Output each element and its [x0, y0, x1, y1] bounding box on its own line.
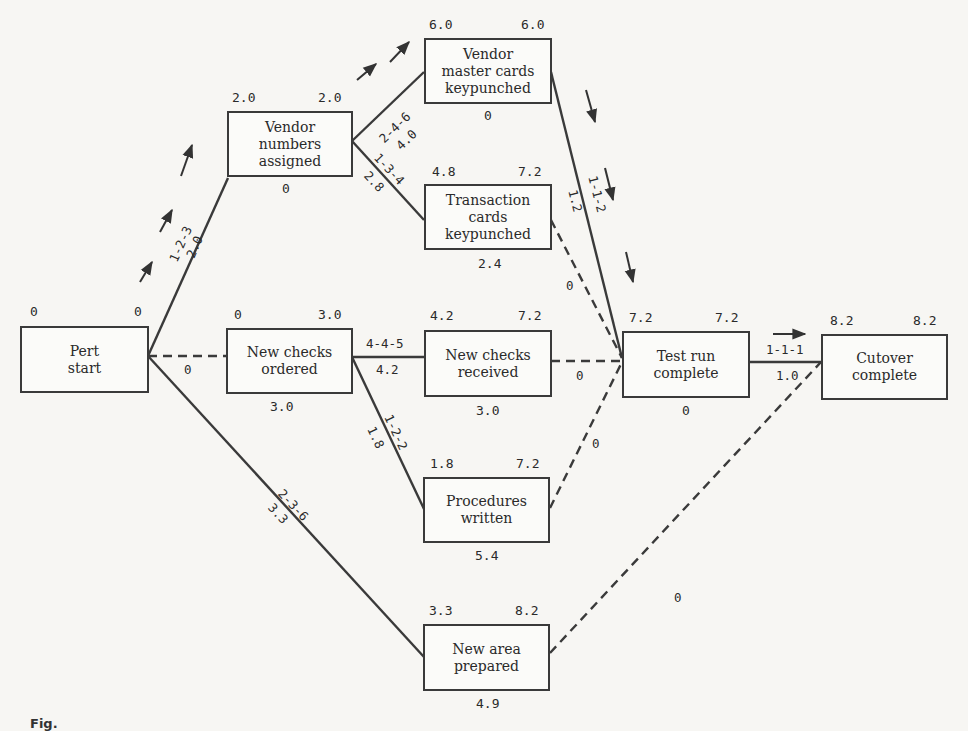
critical-arrow-icon [181, 145, 192, 176]
late-new-area: 8.2 [515, 603, 538, 618]
early-checks-received: 4.2 [430, 308, 453, 323]
edge-label-expected: 1.0 [776, 368, 799, 383]
node-test-run-complete[interactable]: Test run complete [622, 331, 750, 398]
node-vendor-numbers-assigned[interactable]: Vendor numbers assigned [227, 111, 353, 177]
slack-transaction: 2.4 [478, 256, 501, 271]
late-start: 0 [134, 304, 142, 319]
late-checks-ordered: 3.0 [318, 307, 341, 322]
edge-label-estimate: 4-4-5 [366, 336, 404, 351]
node-cutover-complete[interactable]: Cutover complete [821, 334, 948, 400]
critical-arrow-icon [586, 90, 595, 122]
node-new-checks-received[interactable]: New checks received [424, 330, 552, 397]
edge-label-expected: 4.2 [376, 362, 399, 377]
figure-caption: Fig. [30, 716, 58, 731]
late-cutover: 8.2 [913, 313, 936, 328]
early-vendor-numbers: 2.0 [232, 90, 255, 105]
node-vendor-master-cards[interactable]: Vendor master cards keypunched [424, 38, 552, 104]
early-procedures: 1.8 [430, 456, 453, 471]
critical-arrow-icon [357, 64, 376, 80]
critical-arrow-icon [140, 262, 152, 282]
early-vendor-master: 6.0 [429, 17, 452, 32]
slack-vendor-master: 0 [484, 108, 492, 123]
edge-label-expected: 0 [566, 278, 574, 293]
late-checks-received: 7.2 [518, 308, 541, 323]
node-new-checks-ordered[interactable]: New checks ordered [226, 328, 353, 394]
critical-arrow-icon [390, 42, 409, 62]
edge-procedures-testrun [550, 362, 622, 508]
late-test-run: 7.2 [715, 310, 738, 325]
edge-label-expected: 0 [184, 362, 192, 377]
early-new-area: 3.3 [429, 603, 452, 618]
slack-procedures: 5.4 [475, 548, 498, 563]
edge-label-expected: 0 [592, 436, 600, 451]
node-new-area-prepared[interactable]: New area prepared [423, 624, 550, 691]
critical-arrow-icon [605, 168, 613, 200]
early-start: 0 [30, 304, 38, 319]
edge-master-testrun [551, 72, 622, 358]
late-vendor-master: 6.0 [521, 17, 544, 32]
late-transaction: 7.2 [518, 164, 541, 179]
late-procedures: 7.2 [516, 456, 539, 471]
slack-new-area: 4.9 [476, 696, 499, 711]
node-procedures-written[interactable]: Procedures written [423, 477, 550, 543]
critical-arrow-icon [626, 252, 633, 282]
edge-label-estimate: 1-1-1 [766, 342, 804, 357]
slack-checks-ordered: 3.0 [270, 399, 293, 414]
slack-vendor-numbers: 0 [282, 181, 290, 196]
critical-arrow-icon [160, 210, 172, 232]
node-pert-start[interactable]: Pert start [20, 326, 149, 393]
edge-start-vendor-numbers [148, 178, 228, 356]
early-checks-ordered: 0 [234, 307, 242, 322]
edge-label-expected: 0 [674, 590, 682, 605]
slack-checks-received: 3.0 [476, 403, 499, 418]
early-cutover: 8.2 [830, 313, 853, 328]
early-transaction: 4.8 [432, 164, 455, 179]
edge-label-expected: 0 [576, 368, 584, 383]
late-vendor-numbers: 2.0 [318, 90, 341, 105]
slack-test-run: 0 [682, 403, 690, 418]
early-test-run: 7.2 [629, 310, 652, 325]
node-transaction-cards[interactable]: Transaction cards keypunched [424, 184, 552, 250]
edge-transaction-testrun [551, 220, 622, 358]
